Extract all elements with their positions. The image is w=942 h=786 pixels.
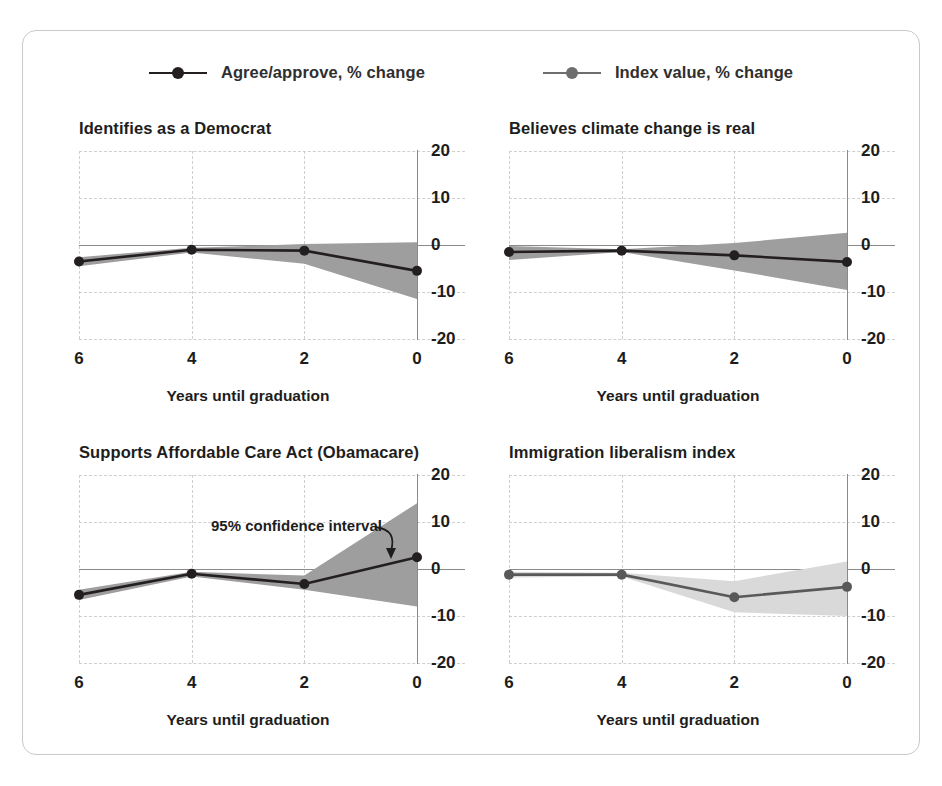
data-point-marker [74,256,84,266]
data-point-marker [729,250,739,260]
x-axis-tick-label: 2 [730,673,739,693]
data-point-marker [617,570,627,580]
confidence-band [509,561,847,616]
data-point-marker [729,592,739,602]
plot-area: 20100-10-206420Years until graduation [79,151,417,339]
y-axis-tick-label: -20 [431,653,456,673]
plot-area: 20100-10-206420Years until graduation [509,475,847,663]
y-axis-tick-label: -20 [431,329,456,349]
x-axis-tick-label: 4 [617,673,626,693]
panel-identifies-as-a-democrat: Identifies as a Democrat 20100-10-206420… [51,119,461,419]
confidence-band [509,233,847,290]
plot-area: 20100-10-206420Years until graduation [509,151,847,339]
y-axis-tick-label: -10 [431,282,456,302]
x-axis-tick-label: 2 [300,349,309,369]
legend-item-index-value: Index value, % change [543,63,793,82]
series-graphics [509,151,847,339]
y-axis-line [847,474,848,664]
data-point-marker [187,245,197,255]
gridline-horizontal [509,663,895,664]
plot-area: 20100-10-206420Years until graduation95%… [79,475,417,663]
data-point-marker [842,257,852,267]
panel-immigration-liberalism-index: Immigration liberalism index 20100-10-20… [481,443,891,743]
x-axis-tick-label: 0 [842,673,851,693]
line-dot-marker-icon [543,67,601,79]
x-axis-tick-label: 2 [300,673,309,693]
y-axis-line [417,150,418,340]
x-axis-tick-label: 4 [617,349,626,369]
data-point-marker [299,246,309,256]
y-axis-tick-label: 10 [861,188,880,208]
annotation-arrow-icon [79,475,417,663]
panel-title: Identifies as a Democrat [79,119,271,138]
x-axis-tick-label: 0 [842,349,851,369]
y-axis-tick-label: 10 [861,512,880,532]
y-axis-tick-label: 20 [861,141,880,161]
legend-label-agree-approve: Agree/approve, % change [221,63,425,82]
y-axis-tick-label: 0 [861,235,870,255]
y-axis-line [847,150,848,340]
y-axis-tick-label: 20 [431,465,450,485]
x-axis-tick-label: 0 [412,673,421,693]
legend-label-index-value: Index value, % change [615,63,793,82]
y-axis-tick-label: 0 [861,559,870,579]
y-axis-tick-label: 0 [431,235,440,255]
data-point-marker [617,246,627,256]
y-axis-tick-label: -20 [861,653,886,673]
x-axis-tick-label: 0 [412,349,421,369]
y-axis-tick-label: -10 [861,606,886,626]
panel-title: Believes climate change is real [509,119,755,138]
panel-supports-affordable-care-act: Supports Affordable Care Act (Obamacare)… [51,443,461,743]
x-axis-tick-label: 2 [730,349,739,369]
y-axis-tick-label: 20 [861,465,880,485]
panel-title: Supports Affordable Care Act (Obamacare) [79,443,419,462]
figure-frame: Agree/approve, % change Index value, % c… [22,30,920,755]
gridline-horizontal [79,663,465,664]
y-axis-tick-label: -20 [861,329,886,349]
y-axis-tick-label: 10 [431,188,450,208]
panel-title: Immigration liberalism index [509,443,736,462]
data-point-marker [504,247,514,257]
data-point-marker [842,582,852,592]
x-axis-tick-label: 6 [504,673,513,693]
y-axis-tick-label: 0 [431,559,440,579]
x-axis-title: Years until graduation [597,387,760,405]
y-axis-tick-label: 10 [431,512,450,532]
x-axis-title: Years until graduation [167,387,330,405]
y-axis-tick-label: -10 [431,606,456,626]
x-axis-title: Years until graduation [597,711,760,729]
x-axis-title: Years until graduation [167,711,330,729]
x-axis-tick-label: 6 [74,673,83,693]
x-axis-tick-label: 4 [187,673,196,693]
panel-believes-climate-change-is-real: Believes climate change is real 20100-10… [481,119,891,419]
y-axis-line [417,474,418,664]
series-graphics [509,475,847,663]
series-graphics [79,151,417,339]
line-dot-marker-icon [149,67,207,79]
gridline-horizontal [79,339,465,340]
chart-legend: Agree/approve, % change Index value, % c… [23,63,919,82]
x-axis-tick-label: 6 [504,349,513,369]
x-axis-tick-label: 6 [74,349,83,369]
x-axis-tick-label: 4 [187,349,196,369]
y-axis-tick-label: 20 [431,141,450,161]
gridline-horizontal [509,339,895,340]
data-point-marker [504,570,514,580]
data-point-marker [412,266,422,276]
y-axis-tick-label: -10 [861,282,886,302]
legend-item-agree-approve: Agree/approve, % change [149,63,425,82]
